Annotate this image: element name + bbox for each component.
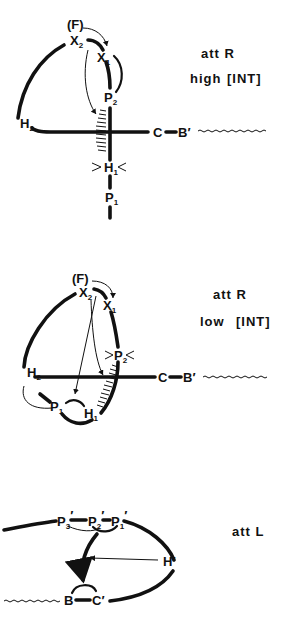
chevron-right-h1 [118, 163, 126, 171]
label-x1: X1 [97, 50, 111, 67]
arrow-p2-b [82, 534, 97, 580]
arc-x1-p2-outer [114, 56, 122, 92]
label-h2: H2 [27, 365, 41, 382]
label-p2: P2 [114, 348, 128, 365]
arc-h2-p1 [23, 386, 52, 408]
label-c: C [153, 125, 163, 140]
caption-low: low [200, 314, 225, 329]
label-f: (F) [72, 271, 89, 286]
caption-int: [INT] [227, 71, 262, 86]
label-h2: H2 [20, 116, 34, 133]
wavy-tail [203, 376, 267, 378]
arc-p1-h1 [66, 400, 84, 406]
label-b: B [64, 593, 73, 608]
label-x2: X2 [70, 33, 84, 50]
label-c-prime: C′ [92, 593, 105, 608]
label-h1: H1 [84, 406, 98, 423]
label-p1: P1 [105, 190, 119, 207]
label-p1: P1 [50, 399, 64, 416]
caption-att-r: att R [213, 287, 247, 302]
label-x1: X1 [103, 298, 117, 315]
arrow-x2-crossover [85, 50, 96, 114]
caption-high: high [190, 71, 221, 86]
chevron-left-h1 [92, 163, 101, 171]
label-p2-prime: P2′ [88, 508, 104, 531]
panel-attL: P3′ P2′ P1′ H′ B C′ att L [4, 508, 264, 608]
label-h-prime: H′ [163, 554, 176, 569]
diagram-canvas: (F) X2 X1 P2 H2 H1 P1 C B′ att R high [I… [0, 0, 281, 617]
strand-x2-h2 [18, 45, 64, 118]
label-f: (F) [67, 17, 84, 32]
strand-p2-h1 [101, 362, 118, 413]
label-p1-prime: P1′ [111, 508, 127, 531]
chevron-left-p2 [105, 351, 113, 359]
strand-p1-left [40, 394, 50, 402]
arrow-x2-p1 [75, 296, 96, 394]
wavy-tail [198, 130, 266, 132]
caption-int: [INT] [236, 314, 271, 329]
arrow-hprime-left [90, 558, 158, 560]
label-h1: H1 [104, 160, 118, 177]
strand-x2-x1 [88, 40, 103, 50]
panel-attR-high: (F) X2 X1 P2 H2 H1 P1 C B′ att R high [I… [18, 17, 266, 218]
panel-attR-low: (F) X2 X1 P2 H2 P1 H1 C B′ att R low [IN… [23, 271, 270, 423]
chevron-right-p2 [126, 351, 134, 359]
strand-hprime-cprime [110, 571, 173, 601]
label-x2: X2 [79, 285, 93, 302]
strand-x2-h2 [24, 294, 75, 367]
strand-left-p3 [4, 521, 56, 530]
caption-att-l: att L [232, 524, 264, 539]
strand-x1-p2 [111, 312, 118, 347]
wavy-tail [4, 600, 60, 602]
label-c: C [158, 370, 168, 385]
caption-att-r: att R [201, 46, 235, 61]
label-b-prime: B′ [183, 370, 196, 385]
label-b-prime: B′ [178, 125, 191, 140]
strand-h2-c [32, 128, 148, 132]
hatched-crossover [96, 110, 106, 151]
arc-b-cprime [72, 585, 96, 593]
